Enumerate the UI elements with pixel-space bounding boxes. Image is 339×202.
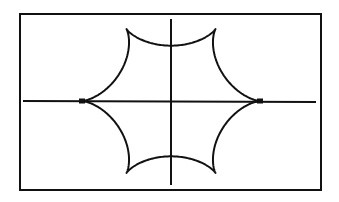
- cusp-marker-right: [257, 99, 263, 104]
- graph-screen: [0, 0, 339, 202]
- x-axis: [23, 101, 316, 102]
- cusp-marker-left: [79, 99, 85, 104]
